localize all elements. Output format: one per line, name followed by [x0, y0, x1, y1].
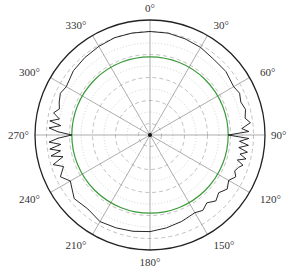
grid-spoke [150, 135, 250, 193]
grid-spoke [150, 78, 250, 136]
angle-label-0: 0° [145, 2, 155, 14]
grid-spoke [93, 135, 151, 235]
angle-label-270: 270° [8, 129, 29, 141]
angle-label-180: 180° [140, 256, 161, 268]
angle-label-60: 60° [260, 66, 275, 78]
center-point [148, 133, 152, 137]
grid-spoke [93, 35, 151, 135]
angle-label-30: 30° [214, 19, 229, 31]
angle-label-90: 90° [271, 129, 286, 141]
angle-label-120: 120° [260, 193, 281, 205]
angle-label-300: 300° [19, 66, 40, 78]
polar-chart: 0°30°60°90°120°150°180°210°240°270°300°3… [0, 0, 298, 271]
grid-spoke [50, 135, 150, 193]
angle-label-240: 240° [19, 193, 40, 205]
grid-spoke [150, 35, 208, 135]
grid-spoke [50, 78, 150, 136]
angle-label-210: 210° [66, 239, 87, 251]
angle-label-330: 330° [66, 19, 87, 31]
grid-spoke [150, 135, 208, 235]
angle-label-150: 150° [214, 239, 235, 251]
